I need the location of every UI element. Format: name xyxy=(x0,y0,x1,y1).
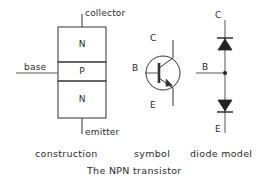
diode-model-diagram xyxy=(196,20,233,133)
collector-terminal-label: collector xyxy=(85,8,125,18)
diode-model-base-label: B xyxy=(202,62,208,72)
npn-transistor-figure: collector emitter base N P N C B E C B E… xyxy=(0,0,272,186)
base-junction-dot xyxy=(223,71,227,75)
layer-letter-n-collector: N xyxy=(58,39,106,49)
caption-symbol: symbol xyxy=(134,148,170,159)
figure-title: The NPN transistor xyxy=(87,165,182,176)
symbol-diagram xyxy=(145,40,180,106)
caption-construction: construction xyxy=(35,148,98,159)
base-emitter-diode-triangle xyxy=(218,100,232,111)
symbol-collector-slant xyxy=(159,58,173,68)
symbol-emitter-arrow xyxy=(166,79,172,86)
emitter-terminal-label: emitter xyxy=(85,127,120,137)
layer-letter-p-base: P xyxy=(58,66,106,76)
symbol-base-label: B xyxy=(132,63,138,73)
diode-model-collector-label: C xyxy=(215,10,221,20)
diode-model-emitter-label: E xyxy=(215,124,221,134)
layer-letter-n-emitter: N xyxy=(58,94,106,104)
symbol-emitter-label: E xyxy=(150,100,156,110)
collector-base-diode-triangle xyxy=(218,39,232,50)
base-terminal-label: base xyxy=(24,62,46,72)
symbol-collector-label: C xyxy=(150,33,156,43)
caption-diode-model: diode model xyxy=(190,148,252,159)
